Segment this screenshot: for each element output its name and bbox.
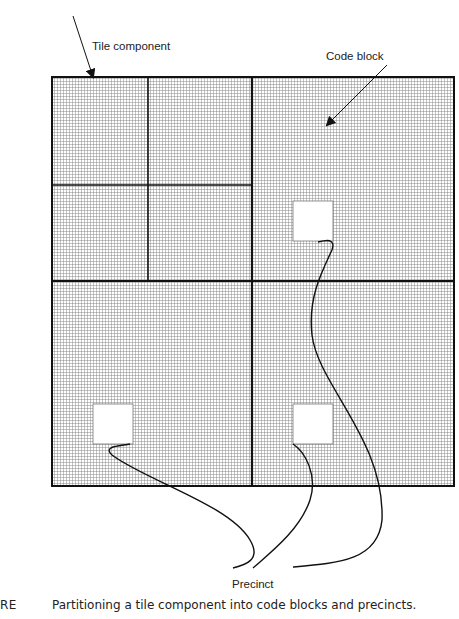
partition-diagram — [0, 0, 459, 619]
precinct-lower-right — [293, 404, 333, 444]
precinct-lower-left — [93, 404, 133, 444]
tile-component-label: Tile component — [92, 40, 170, 52]
tile-component-arrow — [73, 16, 93, 77]
precinct-label: Precinct — [232, 578, 274, 590]
code-block-label: Code block — [326, 50, 384, 62]
figure: Tile component Code block Precinct RE Pa… — [0, 0, 459, 619]
precinct-upper-right — [293, 201, 333, 241]
figure-caption: Partitioning a tile component into code … — [52, 598, 416, 612]
figure-tag: RE — [0, 598, 17, 612]
